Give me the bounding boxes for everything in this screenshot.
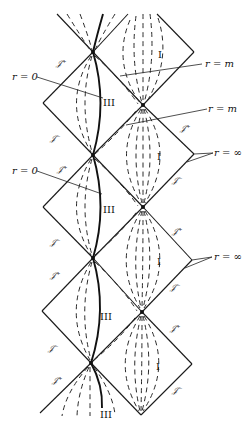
constant-r-curves — [62, 14, 163, 416]
scri-label: 𝒥⁺ — [169, 323, 181, 333]
scri-label: 𝒥⁻ — [47, 343, 59, 353]
region-III-3: III — [100, 311, 112, 322]
scri-label: 𝒥⁻ — [49, 237, 61, 247]
region-I-4: I — [156, 361, 160, 372]
region-I-2: I — [157, 151, 161, 162]
scri-label: 𝒥⁺ — [179, 123, 191, 133]
label-r-0-1: r = 0 — [12, 71, 39, 82]
label-r-m-1: r = m — [205, 58, 234, 69]
scri-label: 𝒥⁻ — [169, 282, 181, 292]
region-III-4: III — [100, 409, 112, 420]
scri-label: 𝒥⁺ — [56, 164, 68, 174]
label-r-m-2: r = m — [208, 103, 237, 114]
scri-label: 𝒥⁺ — [171, 226, 183, 236]
scri-label: 𝒥⁻ — [49, 133, 61, 143]
scri-label: 𝒥⁻ — [171, 175, 183, 185]
region-I-3: I — [157, 256, 161, 267]
singularity-curve — [91, 14, 103, 408]
scri-label: 𝒥⁻ — [171, 385, 183, 395]
region-III-2: III — [103, 204, 115, 215]
region-III-1: III — [103, 97, 115, 108]
penrose-diagram: r = m r = 0 r = m r = 0 r = ∞ r = ∞ I II… — [0, 0, 250, 423]
label-r-inf-1: r = ∞ — [214, 147, 242, 158]
scri-label: 𝒥⁺ — [49, 270, 61, 280]
region-labels: I III I III I III I III — [100, 49, 162, 420]
scri-label: 𝒥⁺ — [51, 375, 63, 385]
label-r-0-2: r = 0 — [12, 165, 39, 176]
scri-label: 𝒥⁺ — [55, 58, 67, 68]
label-r-inf-2: r = ∞ — [214, 251, 242, 262]
scri-labels: 𝒥⁺ 𝒥⁺ 𝒥⁻ 𝒥⁺ 𝒥⁻ 𝒥⁻ 𝒥⁺ 𝒥⁺ 𝒥⁻ 𝒥⁻ 𝒥⁺ 𝒥⁺ 𝒥⁻ — [47, 58, 191, 395]
null-boundaries — [40, 14, 194, 415]
region-I-1: I — [158, 49, 162, 60]
